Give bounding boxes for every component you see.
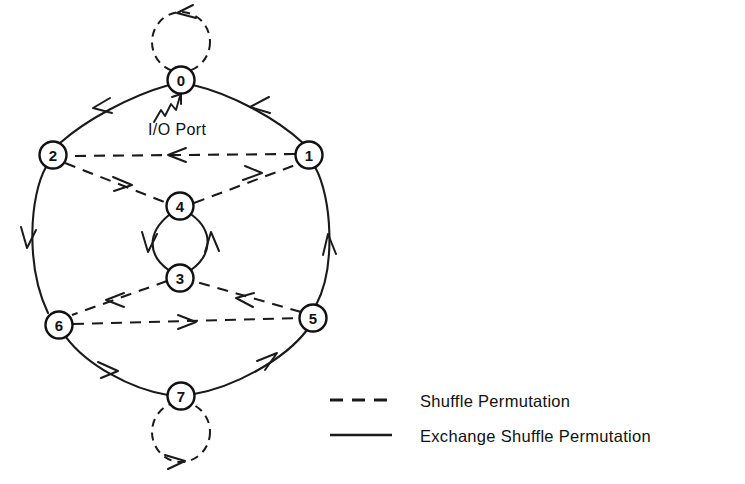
edge-path bbox=[193, 281, 301, 312]
node-label: 2 bbox=[49, 147, 57, 164]
arrow-head-icon bbox=[106, 293, 124, 307]
shuffle-exchange-network-diagram: 0 1 2 4 3 5 6 7 I bbox=[0, 0, 745, 484]
edge-path bbox=[67, 154, 295, 156]
node-5[interactable]: 5 bbox=[300, 305, 327, 332]
arrow-head-icon bbox=[177, 5, 196, 18]
arrow-head-icon bbox=[113, 177, 132, 191]
figure-root: 0 1 2 4 3 5 6 7 I bbox=[0, 0, 745, 484]
node-7[interactable]: 7 bbox=[168, 383, 195, 410]
legend-item-exchange-shuffle: Exchange Shuffle Permutation bbox=[330, 427, 651, 445]
node-4[interactable]: 4 bbox=[167, 193, 194, 220]
edge-exchange-6-to-7 bbox=[66, 337, 168, 395]
node-label: 5 bbox=[309, 310, 317, 327]
node-label: 3 bbox=[176, 270, 184, 287]
legend-item-shuffle: Shuffle Permutation bbox=[330, 392, 570, 410]
edge-path bbox=[65, 163, 167, 203]
arrow-head-icon bbox=[250, 97, 270, 113]
edge-path bbox=[194, 330, 307, 394]
io-port-label: I/O Port bbox=[148, 121, 206, 138]
arrow-head-icon bbox=[257, 353, 277, 370]
edge-path bbox=[72, 281, 167, 315]
edge-path bbox=[66, 337, 168, 395]
self-loop-node-7 bbox=[152, 402, 210, 469]
edge-shuffle-1-to-2 bbox=[67, 148, 295, 162]
node-label: 7 bbox=[177, 388, 185, 405]
self-loop-node-0 bbox=[152, 5, 210, 72]
edge-shuffle-2-to-4 bbox=[65, 163, 167, 203]
legend-label-exchange-shuffle: Exchange Shuffle Permutation bbox=[420, 427, 651, 445]
node-3[interactable]: 3 bbox=[167, 265, 194, 292]
self-loop-path bbox=[152, 12, 210, 72]
io-port-pointer bbox=[154, 94, 181, 122]
edge-exchange-5-to-1 bbox=[315, 167, 336, 305]
edge-shuffle-4-to-1 bbox=[194, 164, 298, 203]
node-label: 1 bbox=[305, 147, 313, 164]
node-label: 4 bbox=[176, 198, 185, 215]
edge-shuffle-3-to-6 bbox=[72, 281, 167, 315]
arrow-head-icon bbox=[21, 227, 36, 248]
edge-exchange-3-to-4 bbox=[191, 215, 219, 270]
self-loop-path bbox=[152, 402, 210, 462]
node-6[interactable]: 6 bbox=[46, 312, 73, 339]
edge-path bbox=[193, 85, 303, 143]
legend: Shuffle Permutation Exchange Shuffle Per… bbox=[330, 392, 651, 445]
arrow-head-icon bbox=[165, 455, 185, 469]
edge-exchange-4-to-3 bbox=[142, 215, 170, 271]
node-1[interactable]: 1 bbox=[296, 142, 323, 169]
edge-path bbox=[191, 215, 208, 270]
edge-shuffle-5-to-3 bbox=[193, 281, 301, 312]
edge-path bbox=[32, 167, 48, 313]
squiggle-arrow-icon bbox=[154, 96, 180, 122]
node-2[interactable]: 2 bbox=[40, 142, 67, 169]
arrow-head-icon bbox=[243, 166, 262, 180]
node-label: 6 bbox=[55, 317, 63, 334]
edge-path bbox=[194, 164, 298, 203]
edge-shuffle-6-to-5 bbox=[73, 315, 300, 329]
node-label: 0 bbox=[177, 72, 185, 89]
node-0[interactable]: 0 bbox=[168, 67, 195, 94]
edge-exchange-1-to-0 bbox=[193, 85, 303, 143]
edge-exchange-2-to-6 bbox=[21, 167, 48, 313]
edge-exchange-7-to-5 bbox=[194, 330, 307, 394]
edge-path bbox=[153, 215, 170, 271]
legend-label-shuffle: Shuffle Permutation bbox=[420, 392, 570, 410]
